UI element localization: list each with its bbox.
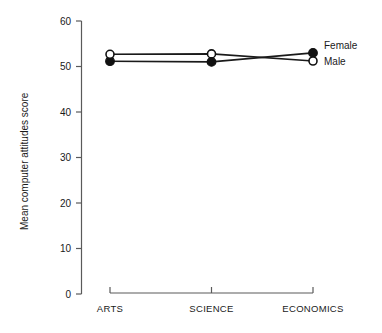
x-category-label-economics: ECONOMICS <box>282 303 343 314</box>
x-category-label-arts: ARTS <box>97 303 123 314</box>
y-tick-label-10: 10 <box>60 243 72 254</box>
line-chart: 60 50 40 30 20 10 0 Mean computer attitu… <box>0 0 382 333</box>
y-tick-label-60: 60 <box>60 16 72 27</box>
legend-label-female: Female <box>324 40 358 51</box>
data-point-male-economics <box>309 57 317 65</box>
legend-label-male: Male <box>324 56 346 67</box>
x-category-label-science: SCIENCE <box>189 303 233 314</box>
x-axis-group <box>110 287 313 293</box>
data-point-male-arts <box>106 50 114 58</box>
y-tick-label-40: 40 <box>60 107 72 118</box>
y-tick-label-0: 0 <box>65 289 71 300</box>
data-point-female-science <box>207 58 216 67</box>
y-axis-title: Mean computer attitudes score <box>19 92 30 230</box>
y-tick-label-30: 30 <box>60 152 72 163</box>
chart-container: 60 50 40 30 20 10 0 Mean computer attitu… <box>0 0 382 333</box>
y-axis-ticks <box>76 21 82 294</box>
data-point-female-economics <box>309 49 318 58</box>
y-tick-label-20: 20 <box>60 198 72 209</box>
data-point-male-science <box>208 50 216 58</box>
y-tick-label-50: 50 <box>60 61 72 72</box>
